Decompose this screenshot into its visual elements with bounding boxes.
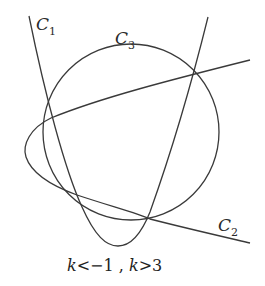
label-c3: C3: [115, 28, 135, 52]
label-c2: C2: [218, 215, 238, 239]
parabola-c1: [29, 16, 208, 246]
circle-c3: [43, 44, 219, 220]
condition-text: k<−1 , k>3: [67, 256, 162, 275]
curves-diagram: C1 C3 C2 k<−1 , k>3: [0, 0, 265, 286]
label-c1: C1: [36, 14, 56, 38]
